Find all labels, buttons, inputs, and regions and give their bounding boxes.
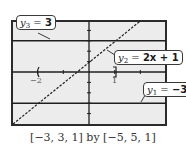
callout-y1: y1 = −3	[143, 82, 186, 97]
graph-figure: −2 1 y3 = 3 y2 = 2x + 1 y1 = −3 [−3, 3, …	[0, 0, 186, 164]
x-tick-label-1: 1	[112, 76, 117, 85]
window-caption: [−3, 3, 1] by [−5, 5, 1]	[0, 131, 186, 144]
callout-y3: y3 = 3	[16, 15, 56, 30]
callout-y2-eq: =	[128, 52, 143, 63]
callout-y3-value: 3	[45, 17, 52, 28]
callout-y3-eq: =	[30, 17, 45, 28]
callout-y1-value: −3	[172, 84, 186, 95]
callout-y2-value: 2x + 1	[143, 52, 179, 63]
x-tick-label-neg2: −2	[30, 76, 42, 85]
callout-y2: y2 = 2x + 1	[114, 50, 183, 65]
callout-y1-eq: =	[157, 84, 172, 95]
